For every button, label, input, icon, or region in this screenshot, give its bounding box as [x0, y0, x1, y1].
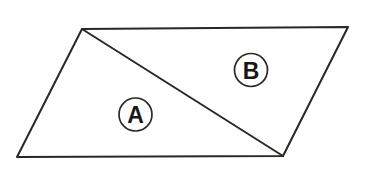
label-b-text: B	[243, 58, 260, 84]
parallelogram-diagram: A B	[0, 0, 368, 172]
label-a-text: A	[127, 102, 144, 128]
label-marker-b: B	[235, 54, 268, 87]
figure-canvas: A B	[0, 0, 368, 172]
label-marker-a: A	[119, 98, 152, 131]
